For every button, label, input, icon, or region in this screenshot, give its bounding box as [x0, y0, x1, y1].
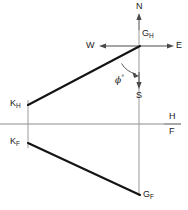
- label-east: E: [176, 41, 182, 50]
- label-plane-f: F: [169, 127, 175, 136]
- label-west: W: [86, 41, 95, 50]
- label-k-f-sub: F: [16, 140, 20, 147]
- label-angle-phi: ϕ°: [115, 72, 124, 85]
- label-k-h-sub: H: [16, 102, 21, 109]
- west-arrow-head: [99, 43, 106, 48]
- label-g-h: GH: [142, 29, 154, 38]
- label-north: N: [136, 2, 143, 11]
- label-g-h-base: G: [142, 28, 149, 38]
- phi-arc-arrow-head: [132, 73, 139, 78]
- diagram-canvas: [0, 0, 188, 210]
- north-arrow-head: [136, 13, 141, 20]
- label-south: S: [136, 91, 142, 100]
- label-k-f: KF: [10, 137, 20, 146]
- east-arrow-head: [167, 43, 174, 48]
- south-arrow-head: [136, 82, 141, 89]
- label-g-h-sub: H: [149, 32, 154, 39]
- projection-diagram: N S E W GH GF KH KF H F ϕ°: [0, 0, 188, 210]
- degree-symbol: °: [121, 73, 124, 80]
- line-kf-gf: [28, 143, 140, 195]
- label-k-h: KH: [10, 99, 21, 108]
- label-g-f: GF: [143, 190, 154, 199]
- label-g-f-sub: F: [150, 193, 154, 200]
- label-g-f-base: G: [143, 189, 150, 199]
- label-plane-h: H: [169, 112, 176, 121]
